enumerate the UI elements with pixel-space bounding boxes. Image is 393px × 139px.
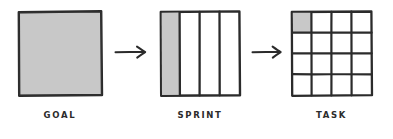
sprint-square-columns [159, 10, 241, 97]
stage-task[interactable]: TASK [290, 10, 373, 97]
task-square-grid [290, 10, 373, 97]
stage-label-sprint: SPRINT [159, 110, 241, 120]
goal-square [17, 10, 103, 97]
stage-sprint[interactable]: SPRINT [159, 10, 241, 97]
arrow-goal-to-sprint-icon [114, 44, 150, 60]
stage-goal[interactable]: GOAL [17, 10, 103, 97]
stage-label-goal: GOAL [17, 110, 103, 120]
arrow-sprint-to-task-icon [251, 44, 285, 60]
diagram-canvas: GOAL SPRINT [0, 0, 393, 139]
stage-label-task: TASK [290, 110, 373, 120]
